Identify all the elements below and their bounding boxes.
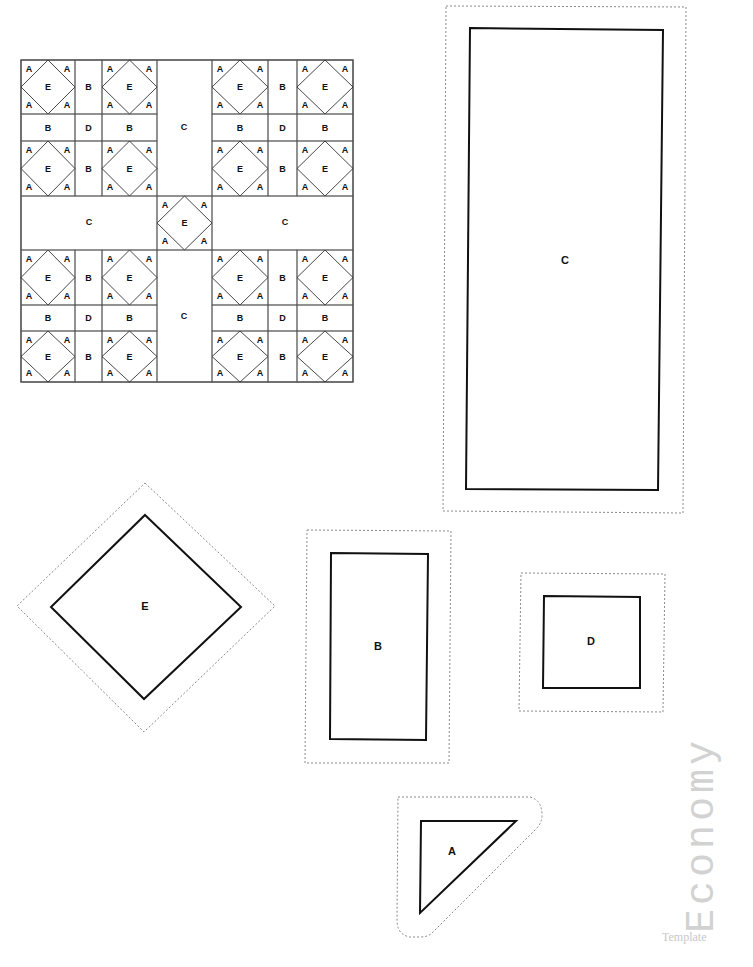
corner-label: A — [217, 100, 224, 110]
quilt-cell-e: EAAAA — [21, 250, 75, 305]
corner-label: A — [146, 64, 153, 74]
quilt-cell-b: B — [297, 305, 353, 331]
cell-label: B — [45, 313, 52, 323]
cell-label: B — [85, 82, 92, 92]
quilt-cell-b: B — [75, 60, 102, 114]
corner-label: A — [257, 64, 264, 74]
piece-label: B — [374, 640, 382, 652]
quilt-cell-d: D — [268, 305, 297, 331]
cell-label: E — [322, 352, 328, 362]
quilt-cell-e: EAAAA — [21, 141, 75, 196]
corner-label: A — [342, 335, 349, 345]
quilt-cell-d: D — [75, 305, 102, 331]
template-canvas: EAAAABEAAAAEAAAABEAAAABDBBDBEAAAABEAAAAE… — [0, 0, 753, 967]
corner-label: A — [64, 182, 71, 192]
quilt-cell-b: B — [297, 114, 353, 141]
quilt-cell-b: B — [268, 250, 297, 305]
corner-label: A — [201, 200, 208, 210]
corner-label: A — [26, 335, 33, 345]
quilt-band-c: C — [212, 196, 353, 250]
quilt-cell-e: EAAAA — [21, 331, 75, 382]
corner-label: A — [162, 236, 169, 246]
corner-label: A — [64, 254, 71, 264]
cell-label: E — [181, 218, 187, 228]
corner-label: A — [26, 368, 33, 378]
corner-label: A — [257, 100, 264, 110]
corner-label: A — [107, 64, 114, 74]
cell-label: E — [237, 164, 243, 174]
cut-line — [420, 821, 516, 913]
quilt-cell-b: B — [21, 114, 75, 141]
cell-label: E — [322, 273, 328, 283]
cell-label: E — [45, 82, 51, 92]
corner-label: A — [146, 335, 153, 345]
corner-label: A — [64, 100, 71, 110]
corner-label: A — [302, 100, 309, 110]
quilt-cell-b: B — [212, 305, 268, 331]
template-piece-a: A — [397, 797, 542, 937]
brand-watermark: Economy — [672, 740, 732, 930]
cell-label: B — [85, 164, 92, 174]
cell-label: D — [85, 123, 92, 133]
cell-label: E — [126, 82, 132, 92]
corner-label: A — [64, 64, 71, 74]
cell-label: E — [45, 352, 51, 362]
cell-label: B — [85, 352, 92, 362]
quilt-band-c: C — [157, 60, 212, 196]
corner-label: A — [26, 64, 33, 74]
quilt-cell-e: EAAAA — [102, 141, 157, 196]
cell-label: B — [126, 123, 133, 133]
quilt-cell-e: EAAAA — [21, 60, 75, 114]
corner-label: A — [302, 145, 309, 155]
cell-label: E — [45, 273, 51, 283]
corner-label: A — [257, 145, 264, 155]
quilt-cell-e: EAAAA — [297, 141, 353, 196]
corner-label: A — [217, 291, 224, 301]
quilt-cell-e: EAAAA — [102, 331, 157, 382]
corner-label: A — [257, 368, 264, 378]
corner-label: A — [64, 368, 71, 378]
corner-label: A — [257, 335, 264, 345]
brand-subtitle: Template — [662, 930, 706, 945]
corner-label: A — [107, 368, 114, 378]
cell-label: D — [279, 313, 286, 323]
piece-label: E — [141, 600, 148, 612]
corner-label: A — [217, 254, 224, 264]
corner-label: A — [26, 291, 33, 301]
cell-label: E — [322, 82, 328, 92]
cell-label: C — [181, 311, 188, 321]
corner-label: A — [26, 182, 33, 192]
quilt-cell-b: B — [102, 305, 157, 331]
cell-label: D — [279, 123, 286, 133]
corner-label: A — [302, 254, 309, 264]
corner-label: A — [302, 368, 309, 378]
template-piece-c: C — [443, 6, 686, 513]
quilt-cell-d: D — [75, 114, 102, 141]
quilt-cell-b: B — [212, 114, 268, 141]
cell-label: E — [237, 352, 243, 362]
corner-label: A — [217, 145, 224, 155]
quilt-cell-b: B — [268, 331, 297, 382]
template-piece-d: D — [519, 573, 665, 712]
quilt-band-c: C — [21, 196, 157, 250]
corner-label: A — [107, 335, 114, 345]
quilt-cell-e: EAAAA — [212, 141, 268, 196]
quilt-cell-e: EAAAA — [297, 250, 353, 305]
quilt-cell-e: EAAAA — [297, 331, 353, 382]
quilt-cell-d: D — [268, 114, 297, 141]
cell-label: B — [322, 313, 329, 323]
quilt-cell-e: EAAAA — [157, 196, 212, 250]
quilt-cell-b: B — [21, 305, 75, 331]
corner-label: A — [64, 335, 71, 345]
corner-label: A — [342, 64, 349, 74]
corner-label: A — [107, 254, 114, 264]
cell-label: E — [126, 273, 132, 283]
corner-label: A — [107, 145, 114, 155]
corner-label: A — [302, 64, 309, 74]
corner-label: A — [146, 100, 153, 110]
cell-label: B — [45, 123, 52, 133]
quilt-cell-e: EAAAA — [212, 250, 268, 305]
corner-label: A — [302, 291, 309, 301]
template-piece-b: B — [305, 530, 451, 763]
corner-label: A — [201, 236, 208, 246]
